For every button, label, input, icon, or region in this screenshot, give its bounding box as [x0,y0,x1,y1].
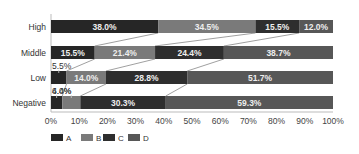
category-label: High [29,22,47,32]
legend-swatch-c [103,134,115,141]
x-tick-label: 10% [71,116,88,126]
category-label: Low [30,73,46,83]
x-tick-label: 90% [296,116,313,126]
x-tick-label: 50% [183,116,200,126]
legend-label: D [143,134,149,143]
series-connector-line [95,33,158,46]
series-connector-line [187,59,224,71]
value-label: 12.0% [304,22,329,32]
value-label: 28.8% [135,73,160,83]
x-tick-label: 40% [155,116,172,126]
value-label: 51.7% [248,73,273,83]
value-label: 34.5% [195,22,220,32]
series-connector-line [80,84,106,96]
value-label: 15.5% [61,48,86,58]
x-tick-label: 30% [127,116,144,126]
legend-swatch-b [81,134,93,141]
series-connector-line [166,84,187,96]
x-tick-label: 0% [45,116,58,126]
legend-swatch-a [51,134,63,141]
value-label: 38.0% [93,22,118,32]
x-tick-label: 60% [212,116,229,126]
legend-label: A [66,134,72,143]
series-connector-line [106,59,155,71]
series-connector-line [155,33,255,46]
legend-swatch-d [128,134,140,141]
value-label: 38.7% [266,48,291,58]
legend-label: B [96,134,101,143]
value-label: 21.4% [113,48,138,58]
x-tick-label: 100% [322,116,344,126]
value-label: 24.4% [177,48,202,58]
value-label: 5.5% [52,61,72,71]
category-label: Negative [12,98,46,108]
value-label: 30.3% [111,98,136,108]
series-connector-line [224,33,299,46]
legend-label: C [118,134,124,143]
stacked-bar-chart: High38.0%34.5%15.5%12.0%Middle15.5%21.4%… [0,0,359,154]
value-label: 14.0% [74,73,99,83]
value-label: 6.4% [52,86,72,96]
value-label: 15.5% [265,22,290,32]
x-tick-label: 20% [99,116,116,126]
category-label: Middle [21,48,46,58]
value-label: 59.3% [237,98,262,108]
x-tick-label: 80% [268,116,285,126]
x-tick-label: 70% [240,116,257,126]
